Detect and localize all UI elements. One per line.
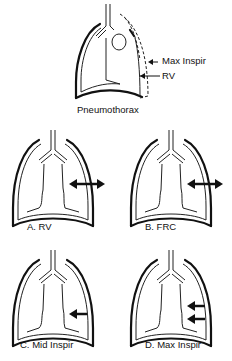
panel-a bbox=[13, 130, 105, 226]
caption-pneumothorax: Pneumothorax bbox=[77, 104, 139, 115]
caption-d: D. Max Inspir bbox=[145, 339, 201, 350]
label-rv: RV bbox=[162, 70, 176, 81]
panel-b bbox=[131, 130, 223, 226]
pneumothorax-figure: Max Inspir RV Pneumothorax bbox=[76, 4, 206, 115]
caption-b: B. FRC bbox=[145, 221, 176, 232]
panel-d bbox=[131, 250, 211, 346]
label-max-inspir: Max Inspir bbox=[162, 55, 206, 66]
lung-diagram: Max Inspir RV Pneumothorax A. RV B. FRC … bbox=[0, 0, 232, 361]
panel-c bbox=[13, 250, 93, 346]
caption-a: A. RV bbox=[27, 221, 52, 232]
caption-c: C. Mid Inspir bbox=[20, 339, 73, 350]
